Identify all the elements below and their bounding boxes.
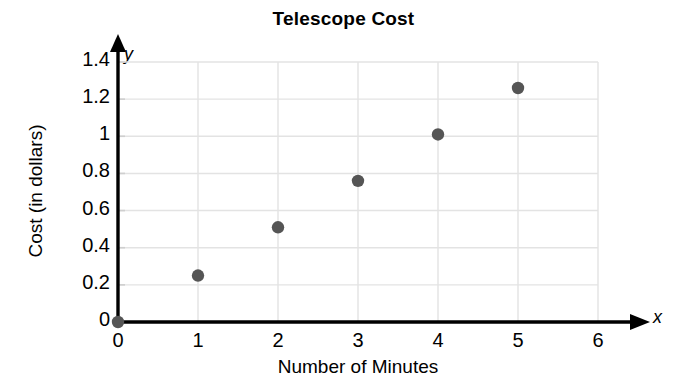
- x-tick-label: 5: [498, 329, 538, 352]
- y-axis-arrow: [110, 34, 126, 52]
- y-tick-label: 0.4: [58, 234, 110, 257]
- x-tick-label: 2: [258, 329, 298, 352]
- gridlines: [118, 62, 598, 322]
- x-axis-arrow: [630, 314, 650, 330]
- y-tick-label: 1.2: [58, 85, 110, 108]
- data-points: [112, 82, 524, 328]
- y-tick-label: 0.6: [58, 197, 110, 220]
- data-point: [432, 128, 444, 140]
- data-point: [192, 269, 204, 281]
- x-tick-label: 3: [338, 329, 378, 352]
- y-tick-label: 0.8: [58, 159, 110, 182]
- x-tick-label: 4: [418, 329, 458, 352]
- y-tick-label: 1.4: [58, 48, 110, 71]
- data-point: [512, 82, 524, 94]
- x-tick-label: 0: [98, 329, 138, 352]
- x-tick-label: 6: [578, 329, 618, 352]
- y-tick-label: 0.2: [58, 271, 110, 294]
- data-point: [272, 221, 284, 233]
- y-tick-label: 1: [58, 122, 110, 145]
- chart-container: Telescope Cost Cost (in dollars) Number …: [0, 0, 687, 388]
- axes: [110, 34, 650, 330]
- data-point: [112, 316, 124, 328]
- y-tick-label: 0: [58, 308, 110, 331]
- data-point: [352, 175, 364, 187]
- x-tick-label: 1: [178, 329, 218, 352]
